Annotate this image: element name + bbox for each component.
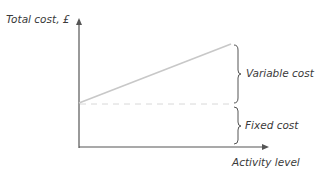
fixed-cost-brace [234, 107, 241, 144]
variable-cost-label: Variable cost [246, 67, 314, 79]
x-axis-label: Activity level [232, 156, 300, 168]
variable-cost-brace [234, 45, 241, 103]
fixed-cost-label: Fixed cost [245, 119, 298, 131]
cost-diagram [0, 0, 321, 175]
y-axis-label: Total cost, £ [6, 13, 70, 25]
total-cost-line [79, 44, 231, 103]
y-axis-arrow-icon [76, 18, 82, 25]
x-axis-arrow-icon [262, 144, 269, 150]
